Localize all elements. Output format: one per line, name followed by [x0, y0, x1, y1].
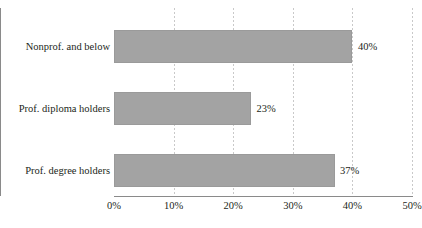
xtick-label-40: 40% [343, 201, 362, 212]
category-label-2-text: Prof. degree holders [25, 165, 110, 176]
xtick-label-10: 10% [164, 201, 183, 212]
bar-nonprof-and-below [114, 30, 352, 63]
xtick-label-30: 30% [283, 201, 302, 212]
category-label-2: Prof. degree holders [0, 166, 110, 177]
bar-prof-diploma-holders [114, 92, 251, 125]
xtick-label-20: 20% [224, 201, 243, 212]
xtick-label-0: 0% [107, 201, 121, 212]
gridline-50 [412, 8, 413, 196]
category-label-1-text: Prof. diploma holders [19, 103, 110, 114]
value-label-prof-degree-holders: 37% [340, 166, 359, 177]
bar-prof-degree-holders [114, 154, 335, 187]
x-axis-line [114, 196, 413, 197]
category-label-0-text: Nonprof. and below [26, 41, 110, 52]
value-label-nonprof-and-below: 40% [358, 42, 377, 53]
category-label-1: Prof. diploma holders [0, 104, 110, 115]
value-label-prof-diploma-holders: 23% [257, 104, 276, 115]
category-label-0: Nonprof. and below [0, 42, 110, 53]
xtick-label-50: 50% [402, 201, 421, 212]
